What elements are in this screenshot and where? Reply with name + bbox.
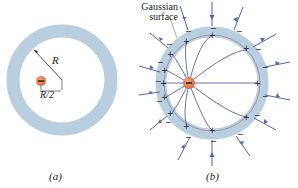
svg-text:+: + [243, 44, 250, 53]
offset-label: R/2 [40, 89, 54, 100]
induced-charges: +++ +++ +++ +++ −−− −−− −−− −−− −−− [155, 24, 269, 146]
svg-text:+: + [183, 37, 190, 46]
svg-text:+: + [167, 50, 174, 59]
svg-text:−: − [185, 133, 192, 142]
svg-text:−: − [185, 27, 192, 36]
svg-text:−: − [255, 45, 262, 54]
svg-text:−: − [156, 97, 163, 106]
panel-a-label: (a) [49, 170, 62, 182]
svg-text:−: − [254, 111, 261, 120]
svg-text:−: − [210, 24, 217, 33]
gaussian-surface-label: Gaussian surface [131, 2, 178, 22]
svg-text:−: − [262, 92, 269, 101]
svg-text:−: − [155, 77, 162, 86]
svg-text:+: + [254, 79, 261, 88]
gaussian-label-line2: surface [131, 12, 178, 22]
svg-text:+: + [167, 109, 174, 118]
svg-text:−: − [165, 118, 172, 127]
panel-b-label: (b) [206, 170, 219, 182]
svg-text:−: − [157, 58, 164, 67]
svg-text:−: − [166, 40, 173, 49]
svg-text:−: − [236, 27, 243, 36]
svg-text:+: + [209, 126, 216, 135]
svg-text:−: − [262, 63, 269, 72]
svg-text:−: − [237, 130, 244, 139]
panel-a [13, 31, 111, 129]
svg-text:+: + [183, 122, 190, 131]
svg-text:+: + [161, 66, 168, 75]
svg-text:+: + [243, 113, 250, 122]
panel-b: +++ +++ +++ +++ −−− −−− −−− −−− −−− [139, 2, 290, 166]
radius-label: R [52, 54, 59, 66]
svg-text:−: − [210, 137, 217, 146]
